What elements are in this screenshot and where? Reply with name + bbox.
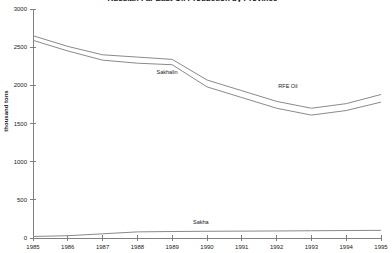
chart-axes (30, 9, 381, 241)
series-line-rfe-oil (33, 36, 381, 109)
data-series-group (33, 36, 381, 237)
series-line-sakhalin (33, 40, 381, 115)
